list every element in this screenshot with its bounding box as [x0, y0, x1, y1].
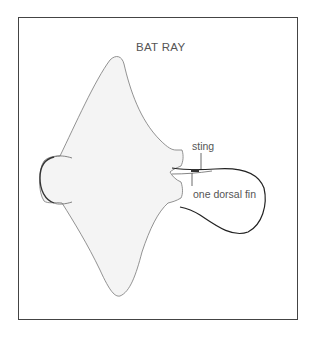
ray-body	[40, 57, 184, 297]
tail	[172, 168, 265, 234]
sting-label: sting	[192, 141, 214, 152]
figure-title: BAT RAY	[136, 42, 185, 53]
dorsal-fin-label: one dorsal fin	[193, 189, 256, 200]
sting-mark	[191, 169, 199, 172]
